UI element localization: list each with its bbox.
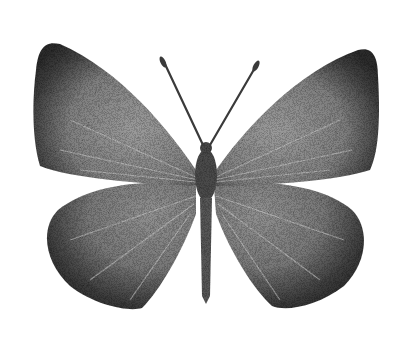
right-forewing (212, 49, 379, 186)
left-hindwing (47, 183, 196, 309)
thorax (195, 149, 217, 201)
antennae (164, 62, 256, 145)
right-hindwing (214, 183, 364, 309)
left-forewing (33, 43, 200, 186)
butterfly-illustration (0, 0, 413, 339)
abdomen (200, 198, 212, 304)
butterfly-drawing (0, 0, 413, 339)
left-antenna (164, 62, 203, 145)
